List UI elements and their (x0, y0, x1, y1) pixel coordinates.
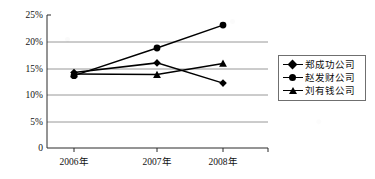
data-point-2007年 (154, 45, 161, 52)
chart-legend: 郑成功公司 赵发财公司 刘有钱公司 (278, 55, 366, 101)
legend-label-zhengchenggong: 郑成功公司 (305, 59, 355, 70)
x-category-label-2008: 2008年 (209, 156, 238, 167)
y-axis (47, 15, 51, 148)
y-tick-label-20: 20% (26, 37, 44, 47)
legend-label-liuyouqian: 刘有钱公司 (305, 85, 355, 96)
y-tick-label-5: 5% (30, 117, 43, 127)
series-line (74, 25, 223, 76)
legend-item-zhengchenggong[interactable]: 郑成功公司 (283, 58, 362, 71)
series-layer (70, 22, 227, 87)
x-category-label-2007: 2007年 (143, 156, 172, 167)
x-axis (47, 148, 268, 152)
y-tick-label-15: 15% (26, 64, 44, 74)
data-point-2008年 (219, 79, 227, 87)
data-point-2008年 (220, 22, 227, 29)
line-chart: 25% 20% 15% 10% 5% 0 2006年 2007年 2008年 郑… (0, 0, 375, 179)
y-tick-label-10: 10% (26, 90, 44, 100)
gridlines (47, 42, 268, 122)
data-point-2007年 (153, 59, 161, 67)
y-tick-label-0: 0 (38, 143, 43, 153)
series-line (74, 63, 223, 83)
legend-key-circle-icon (283, 72, 303, 83)
y-tick-label-25: 25% (26, 10, 44, 20)
legend-label-zhaofacai: 赵发财公司 (305, 72, 355, 83)
series-1-diamond (70, 59, 227, 87)
legend-item-zhaofacai[interactable]: 赵发财公司 (283, 71, 362, 84)
legend-key-diamond-icon (283, 59, 303, 70)
legend-key-triangle-icon (283, 85, 303, 96)
legend-item-liuyouqian[interactable]: 刘有钱公司 (283, 84, 362, 97)
x-category-label-2006: 2006年 (60, 156, 89, 167)
